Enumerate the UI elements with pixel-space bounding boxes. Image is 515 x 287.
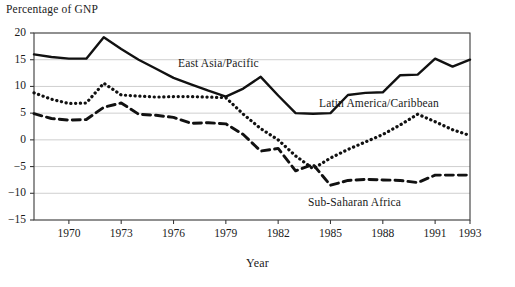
x-tick-label: 1985: [307, 228, 353, 240]
x-tick-label: 1973: [98, 228, 144, 240]
x-tick-label: 1988: [360, 228, 406, 240]
y-tick-label: 15: [0, 54, 26, 66]
series-line-3: [34, 103, 470, 185]
series-label-1: East Asia/Pacific: [178, 57, 259, 69]
y-tick-label: 20: [0, 27, 26, 39]
series-label-2: Latin America/Caribbean: [319, 97, 439, 109]
y-tick-label: −5: [0, 161, 26, 173]
x-tick-label: 1982: [255, 228, 301, 240]
x-tick-label: 1993: [447, 228, 493, 240]
x-axis-title: Year: [0, 256, 515, 271]
x-tick-label: 1979: [203, 228, 249, 240]
gnp-line-chart: Percentage of GNP 20151050−5−10−15 19701…: [0, 0, 515, 287]
series-label-3: Sub-Saharan Africa: [308, 196, 401, 208]
plot-area: [0, 0, 515, 287]
y-tick-label: 10: [0, 80, 26, 92]
y-tick-label: −15: [0, 214, 26, 226]
x-tick-label: 1970: [46, 228, 92, 240]
x-tick-label: 1976: [151, 228, 197, 240]
y-tick-label: 0: [0, 134, 26, 146]
y-tick-label: 5: [0, 107, 26, 119]
y-tick-label: −10: [0, 187, 26, 199]
